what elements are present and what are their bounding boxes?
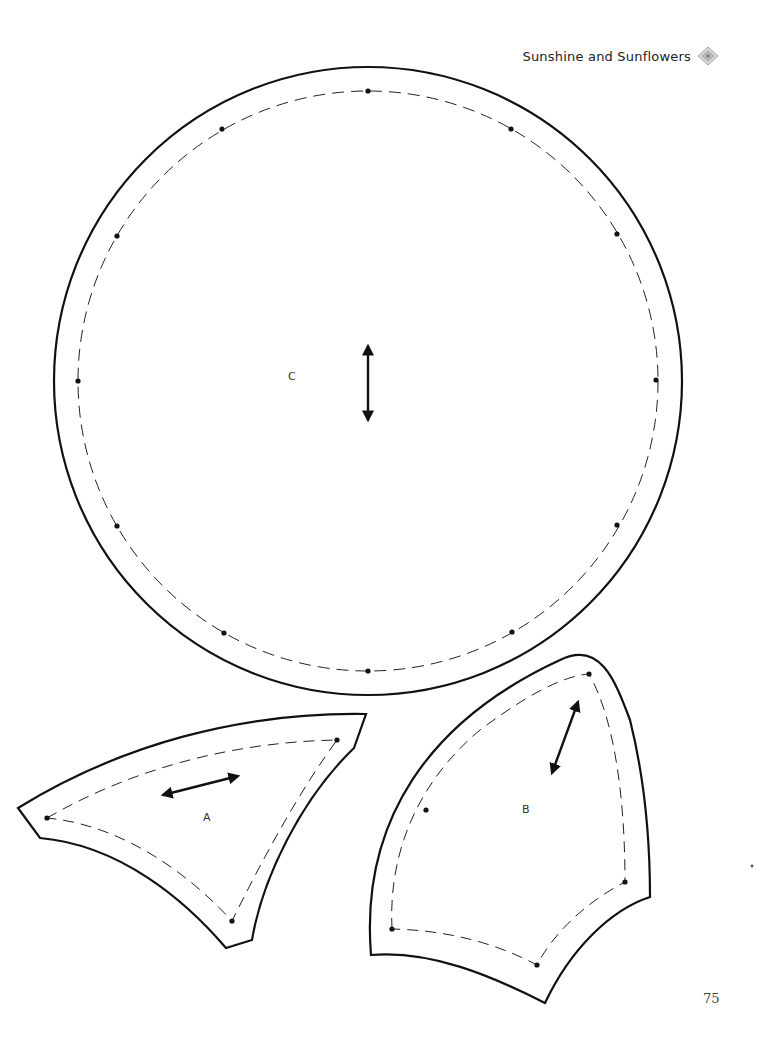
cut-line (18, 714, 366, 948)
grain-arrow-icon (163, 776, 238, 795)
registration-dots (389, 671, 627, 967)
page-number: 75 (703, 991, 720, 1006)
registration-dots (44, 737, 339, 923)
seam-line (392, 674, 625, 965)
pattern-templates: C A B (0, 0, 775, 1044)
piece-label-a: A (203, 811, 211, 824)
pattern-piece-b: B (370, 655, 650, 1003)
pattern-piece-a: A (18, 714, 366, 948)
piece-label-c: C (288, 370, 296, 383)
piece-label-b: B (522, 803, 530, 816)
pattern-piece-c: C (54, 67, 682, 695)
grain-arrow-icon (552, 702, 578, 773)
cut-line (370, 655, 650, 1003)
seam-line (47, 740, 337, 921)
speck (751, 865, 754, 868)
